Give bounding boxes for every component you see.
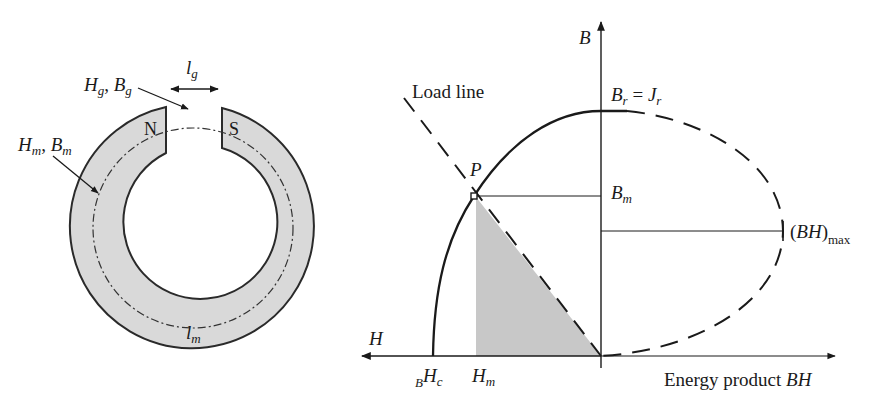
energy-axis-label: Energy product BH: [664, 370, 811, 389]
gap-length-label: lg: [186, 58, 198, 80]
ring-magnet: [70, 107, 314, 348]
south-pole-label: S: [229, 120, 239, 138]
operating-point-marker: [471, 193, 477, 199]
gap-field-label: Hg, Bg: [84, 75, 132, 97]
coercivity-label: BHc: [415, 366, 442, 389]
gap-field-pointer: [138, 88, 188, 109]
magnet-field-label: Hm, Bm: [18, 135, 72, 157]
ring-body: [70, 107, 314, 348]
operating-point-label: P: [470, 160, 482, 179]
magnet-length-label: lm: [186, 323, 201, 345]
load-line-label: Load line: [412, 82, 484, 101]
energy-product-curve: [601, 111, 783, 356]
hm-label: Hm: [472, 366, 495, 388]
diagram-canvas: [0, 0, 880, 406]
north-pole-label: N: [144, 120, 157, 138]
h-axis-label: H: [369, 329, 383, 348]
remanence-label: Br = Jr: [611, 85, 661, 107]
bm-label: Bm: [611, 183, 632, 205]
b-axis-label: B: [579, 28, 591, 47]
bhmax-label: (BH)max: [790, 222, 850, 246]
